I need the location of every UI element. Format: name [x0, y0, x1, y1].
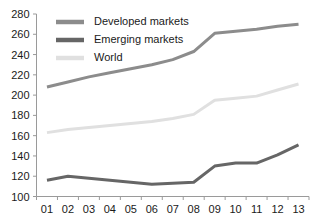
y-axis-tick-label: 140 [11, 150, 29, 162]
series-lines [47, 24, 299, 184]
y-axis-tick-label: 240 [11, 49, 29, 61]
y-axis-tick-label: 120 [11, 170, 29, 182]
legend-label-world: World [94, 51, 123, 63]
y-axis-tick-label: 200 [11, 89, 29, 101]
x-axis-tick-label: 06 [146, 203, 158, 215]
x-axis-tick-label: 07 [167, 203, 179, 215]
y-axis-tick-label: 160 [11, 130, 29, 142]
x-axis-tick-label: 11 [251, 203, 262, 215]
y-axis: 100120140160180200220240260280 [11, 8, 36, 203]
x-axis-tick-label: 01 [41, 203, 53, 215]
series-line-emerging-markets [47, 145, 299, 185]
y-axis-tick-label: 260 [11, 28, 29, 40]
series-line-world [47, 84, 299, 133]
x-axis-tick-label: 10 [230, 203, 242, 215]
x-axis: 01020304050607080910111213 [37, 197, 310, 215]
chart-canvas: 100120140160180200220240260280 010203040… [0, 0, 314, 219]
x-axis-tick-label: 12 [271, 203, 283, 215]
x-axis-tick-label: 04 [104, 203, 116, 215]
line-chart: 100120140160180200220240260280 010203040… [0, 0, 314, 219]
x-axis-tick-label: 03 [83, 203, 95, 215]
chart-legend: Developed marketsEmerging marketsWorld [56, 15, 189, 63]
y-axis-tick-label: 100 [11, 191, 29, 203]
y-axis-tick-label: 180 [11, 109, 29, 121]
y-axis-tick-label: 280 [11, 8, 29, 20]
x-axis-tick-label: 13 [292, 203, 304, 215]
y-axis-tick-label: 220 [11, 69, 29, 81]
x-axis-tick-label: 02 [62, 203, 74, 215]
x-axis-tick-label: 09 [209, 203, 221, 215]
legend-label-emerging-markets: Emerging markets [94, 33, 184, 45]
x-axis-tick-label: 08 [188, 203, 200, 215]
legend-label-developed-markets: Developed markets [94, 15, 189, 27]
x-axis-tick-label: 05 [125, 203, 137, 215]
